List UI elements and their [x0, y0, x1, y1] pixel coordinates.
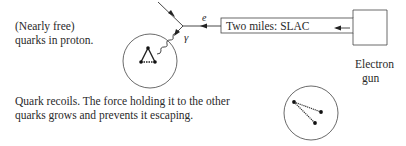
quarks-label-line1: (Nearly free)	[15, 19, 75, 33]
quark-dot	[292, 100, 296, 104]
recoil-group	[284, 86, 338, 140]
accelerator-label: Two miles: SLAC	[226, 19, 310, 33]
quark-dot	[313, 121, 317, 125]
arrow-icon	[168, 10, 175, 17]
gluon-string	[294, 102, 321, 112]
photon-symbol: γ	[184, 30, 188, 44]
gluon-string	[294, 102, 315, 123]
electron-path	[158, 2, 221, 26]
quarks-label-line2: quarks in proton.	[15, 33, 93, 47]
quark-dot	[139, 60, 143, 64]
recoil-label-line1: Quark recoils. The force holding it to t…	[15, 94, 230, 108]
gun-label-line2: gun	[362, 71, 379, 85]
recoil-label-line2: quarks grows and prevents it escaping.	[15, 108, 193, 122]
proton-group	[123, 34, 177, 88]
quark-dot	[319, 110, 323, 114]
proton-circle	[123, 34, 177, 88]
electron-gun-box	[353, 10, 387, 45]
quark-dot	[153, 60, 157, 64]
gun-label-line1: Electron	[355, 57, 394, 71]
electron-symbol: e	[202, 11, 206, 25]
quark-dot	[146, 46, 150, 50]
arrow-icon	[334, 26, 341, 31]
quark-triangle	[141, 48, 155, 62]
photon-line	[157, 26, 183, 54]
recoil-circle	[284, 86, 338, 140]
